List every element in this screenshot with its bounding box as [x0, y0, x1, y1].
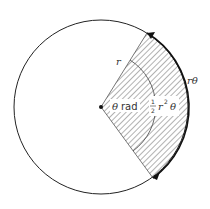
area-fraction-denominator: 2: [151, 107, 155, 114]
area-theta: θ: [170, 101, 176, 112]
angle-unit: rad: [121, 101, 138, 112]
arc-length-label: rθ: [187, 75, 198, 86]
angle-symbol: θ: [112, 101, 118, 112]
area-exponent: 2: [164, 98, 168, 105]
sector-diagram: r rθ θ rad 1 2 r 2 θ: [0, 0, 210, 209]
center-point: [99, 105, 103, 109]
radius-label: r: [116, 56, 122, 67]
area-fraction-numerator: 1: [151, 98, 155, 105]
